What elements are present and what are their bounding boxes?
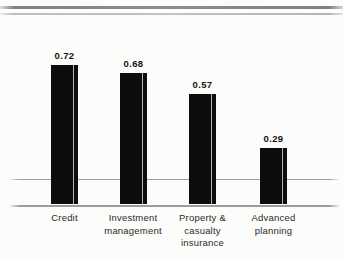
bar-credit: 0.72 [51,65,78,204]
bar-value-label: 0.29 [263,133,283,144]
bar-advanced-planning: 0.29 [260,148,287,204]
scanned-bar-chart-page: 0.72 0.68 0.57 0.29 Credit Investment ma… [0,0,343,261]
category-label-line: insurance [157,237,249,250]
bar-property-casualty-insurance: 0.57 [189,94,216,204]
category-label-line: Advanced [228,212,320,225]
bar-highlight-stripe [142,73,144,204]
bar-highlight-stripe [211,94,213,204]
bar-highlight-stripe [73,65,75,204]
bar-value-label: 0.57 [192,79,212,90]
category-label-line: planning [228,225,320,238]
category-label-advanced-planning: Advanced planning [228,212,320,237]
bar-value-label: 0.68 [123,58,143,69]
bar-chart: 0.72 0.68 0.57 0.29 Credit Investment ma… [0,0,343,261]
bar-investment-management: 0.68 [120,73,147,204]
bar-highlight-stripe [282,148,284,204]
axis-baseline [10,205,339,207]
bar-value-label: 0.72 [54,50,74,61]
